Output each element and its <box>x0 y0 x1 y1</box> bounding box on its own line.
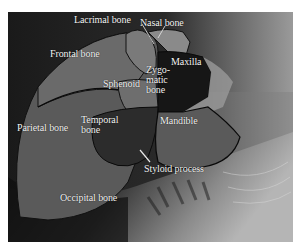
label-zygomatic-line-3: bone <box>146 84 165 95</box>
skull-figure: Lacrimal bone Nasal bone Frontal bone Zy… <box>8 12 293 242</box>
label-temporal-bone: Temporal bone <box>81 115 118 135</box>
label-parietal-bone: Parietal bone <box>17 123 68 133</box>
label-occipital-bone: Occipital bone <box>60 193 117 203</box>
label-lacrimal-bone: Lacrimal bone <box>74 15 131 25</box>
label-styloid-process: Styloid process <box>144 164 204 174</box>
label-zygomatic-bone: Zygo- matic bone <box>146 65 170 95</box>
label-frontal-bone: Frontal bone <box>50 49 100 59</box>
label-nasal-bone: Nasal bone <box>140 18 184 28</box>
label-mandible: Mandible <box>160 116 198 126</box>
label-temporal-line-2: bone <box>81 124 100 135</box>
label-sphenoid: Sphenoid <box>103 79 140 89</box>
label-maxilla: Maxilla <box>171 57 201 67</box>
